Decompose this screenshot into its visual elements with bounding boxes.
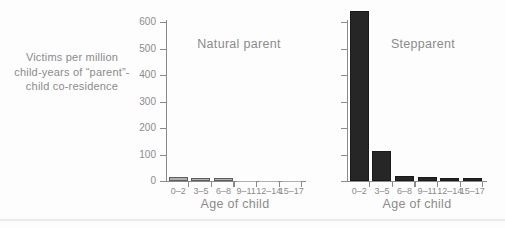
- bar: [395, 176, 414, 181]
- y-tick: [341, 22, 347, 23]
- bar: [418, 177, 437, 181]
- y-tick: [341, 128, 347, 129]
- category-label: 15–17: [454, 186, 490, 196]
- chart-stepparent: 0–23–56–89–1112–1415–17: [0, 0, 505, 228]
- bar: [463, 178, 482, 181]
- y-tick: [341, 102, 347, 103]
- figure-homicide-risk-chart: Victims per million child-years of “pare…: [0, 0, 505, 228]
- y-axis-line: [347, 20, 348, 182]
- y-tick: [341, 155, 347, 156]
- y-tick: [341, 181, 347, 182]
- page-fold-line: [0, 219, 505, 221]
- y-tick: [341, 75, 347, 76]
- x-axis-title-stepparent: Age of child: [347, 197, 487, 211]
- y-tick: [341, 49, 347, 50]
- chart-title-stepparent: Stepparent: [353, 37, 493, 51]
- bar: [372, 151, 391, 181]
- bar: [440, 178, 459, 181]
- x-axis-line: [347, 181, 488, 182]
